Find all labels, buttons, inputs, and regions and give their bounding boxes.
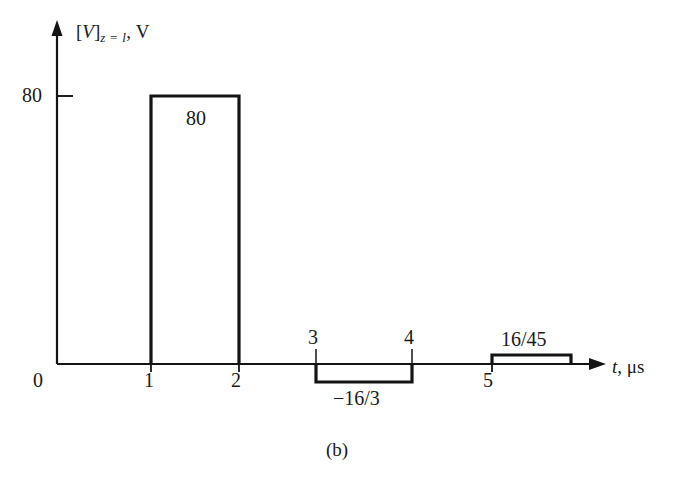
x-tick-marks: [151, 349, 492, 372]
x-tick-label-2: 2: [231, 370, 241, 390]
pulse-2-value-label: −16/3: [333, 388, 380, 408]
x-axis-title: t, μs: [612, 357, 644, 376]
x-axis: [57, 358, 606, 370]
x-tick-label-1: 1: [144, 370, 154, 390]
x-tick-label-5: 5: [483, 370, 493, 390]
x-tick-label-0: 0: [33, 370, 43, 390]
x-tick-label-4: 4: [404, 327, 414, 347]
x-tick-label-3: 3: [308, 327, 318, 347]
plot-canvas: [0, 0, 674, 482]
pulse-3-value-label: 16/45: [501, 329, 547, 349]
pulse-3-trace: [492, 355, 571, 364]
figure-caption: (b): [0, 440, 674, 459]
y-axis-title: [V]z = l, V: [76, 22, 149, 44]
pulse-2-trace: [316, 364, 412, 382]
pulse-1-trace: [151, 96, 239, 364]
pulse-1-value-label: 80: [186, 108, 206, 128]
y-tick-label-80: 80: [22, 85, 42, 105]
figure-container: [V]z = l, V t, μs 80 0 1 2 3 4 5 80 −16/…: [0, 0, 674, 482]
y-axis: [52, 20, 63, 364]
